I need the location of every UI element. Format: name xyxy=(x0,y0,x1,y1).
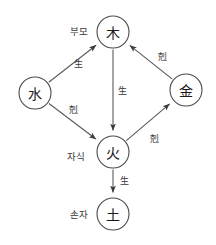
diagram-canvas: 木水金火土 生剋生生剋剋부모자식손자 xyxy=(0,0,216,245)
edge-label-water-to-fire: 剋 xyxy=(69,105,78,115)
labels-layer: 生剋生生剋剋부모자식손자 xyxy=(67,26,167,220)
nodes-layer: 木水金火土 xyxy=(19,16,202,230)
kinship-label-grandchild: 손자 xyxy=(70,209,88,220)
edge-metal-to-wood xyxy=(130,45,172,79)
edges-layer xyxy=(49,45,173,192)
edge-water-to-wood xyxy=(49,45,96,82)
node-glyph-water: 水 xyxy=(28,86,42,102)
edge-label-fire-to-earth: 生 xyxy=(120,175,129,186)
kinship-label-parent: 부모 xyxy=(70,26,88,37)
node-glyph-wood: 木 xyxy=(106,25,120,41)
node-glyph-earth: 土 xyxy=(106,207,120,223)
node-glyph-fire: 火 xyxy=(106,145,120,161)
edge-label-water-to-wood: 生 xyxy=(74,58,83,69)
edge-label-fire-to-metal: 剋 xyxy=(150,134,159,144)
five-elements-diagram: 木水金火土 生剋生生剋剋부모자식손자 xyxy=(0,0,216,245)
edge-label-metal-to-wood: 剋 xyxy=(158,52,167,62)
edge-fire-to-metal xyxy=(126,104,169,141)
edge-label-wood-to-fire: 生 xyxy=(118,85,127,96)
kinship-label-child: 자식 xyxy=(67,151,85,162)
node-glyph-metal: 金 xyxy=(179,83,193,99)
